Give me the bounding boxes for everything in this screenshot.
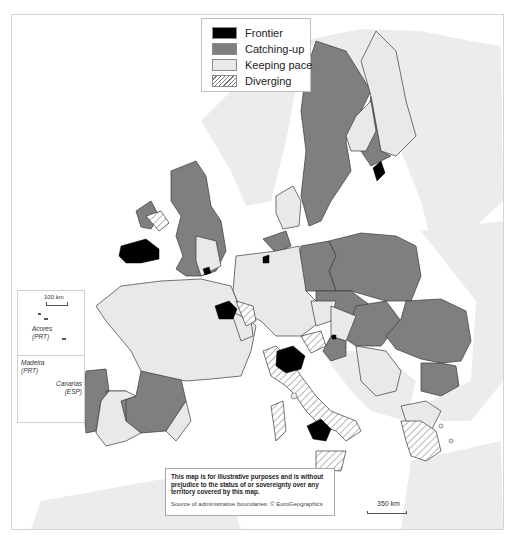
legend-item-frontier: Frontier [212,26,283,40]
source-text: Source of administrative boundaries: © E… [171,501,329,507]
scale-bar: 350 km [367,501,407,515]
legend-label: Frontier [245,27,283,39]
diverging-swatch [212,75,237,87]
legend-label: Keeping pace [245,59,312,71]
scale-label: 350 km [377,500,400,507]
disclaimer-text: This map is for illustrative purposes an… [171,473,329,496]
legend-label: Catching-up [245,43,304,55]
inset-scale-bar [46,302,68,306]
disclaimer-box: This map is for illustrative purposes an… [165,468,335,516]
legend-label: Diverging [245,75,291,87]
scale-line [367,511,407,514]
madeira-label: Madeira(PRT) [21,359,44,375]
azores-inset: 100 km Acores(PRT) [17,290,85,356]
island-icon [62,338,66,340]
catching-up-swatch [212,43,237,55]
inset-scale-label: 100 km [44,294,64,300]
legend-item-catching-up: Catching-up [212,42,304,56]
map-frame: Frontier Catching-up Keeping pace Diverg… [11,14,504,530]
frontier-swatch [212,27,237,39]
madeira-canarias-inset: Madeira(PRT) Canarias(ESP) [17,355,85,423]
map-legend: Frontier Catching-up Keeping pace Diverg… [201,18,311,92]
legend-item-keeping-pace: Keeping pace [212,58,312,72]
legend-item-diverging: Diverging [212,74,291,88]
island-icon [44,318,48,320]
canarias-label: Canarias(ESP) [56,380,82,396]
azores-label: Acores(PRT) [32,325,52,341]
keeping-pace-swatch [212,59,237,71]
island-icon [38,313,41,315]
europe-regions-map [12,15,503,529]
